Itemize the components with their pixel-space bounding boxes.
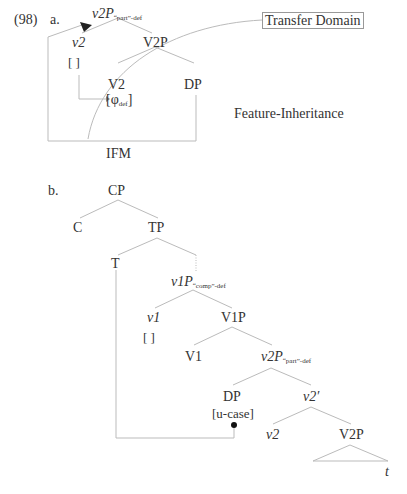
node-v1: v1	[147, 310, 160, 326]
node-V2: V2	[108, 77, 125, 93]
dot-icon	[231, 422, 237, 428]
part-a-label: a.	[50, 12, 60, 28]
v2-bracket: [ ]	[68, 55, 80, 71]
node-v2P: v2P“part”-def	[261, 349, 311, 369]
node-V1P: V1P	[221, 310, 246, 326]
node-v2: v2	[72, 35, 85, 51]
arrowhead-icon	[80, 22, 92, 32]
u-case-feature: [u-case]	[212, 406, 254, 422]
phi-def-feature: [φdef]	[106, 92, 132, 112]
part-b-label: b.	[48, 183, 59, 199]
v1-bracket: [ ]	[143, 330, 155, 346]
ifm-label: IFM	[106, 146, 131, 162]
feature-inheritance-label: Feature-Inheritance	[234, 106, 344, 122]
node-TP: TP	[148, 220, 164, 236]
transfer-domain-label: Transfer Domain	[262, 12, 364, 29]
example-number: (98)	[14, 12, 37, 28]
node-v2-bar: v2′	[303, 389, 319, 405]
node-DP: DP	[184, 77, 202, 93]
trace-t: t	[385, 464, 389, 480]
node-C: C	[73, 220, 82, 236]
node-T: T	[111, 256, 120, 272]
node-DP-b: DP	[223, 389, 241, 405]
node-V2P: V2P	[143, 35, 168, 51]
node-V2P-b: V2P	[339, 427, 364, 443]
node-CP: CP	[108, 183, 125, 199]
tree-lines	[0, 0, 407, 494]
node-v1P: v1P“comp”-def	[171, 274, 226, 294]
node-V1: V1	[185, 349, 202, 365]
node-v2p-root: v2P“part”-def	[92, 6, 142, 26]
node-v2-b: v2	[266, 427, 279, 443]
